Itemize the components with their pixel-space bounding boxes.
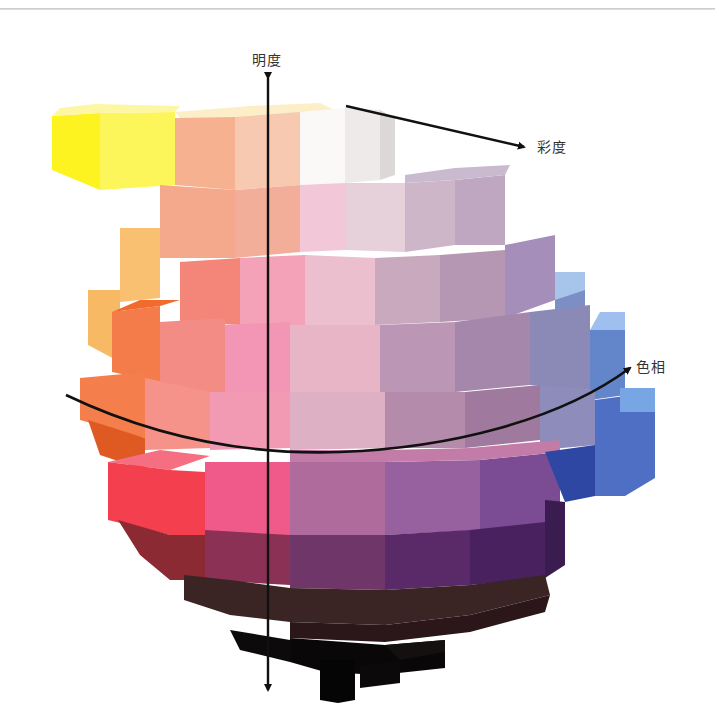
- color-block-rose-eq: [290, 392, 385, 450]
- color-block-pink-deep: [205, 462, 290, 535]
- color-block-orange-light: [120, 228, 160, 302]
- chroma-axis-label: 彩度: [537, 136, 567, 156]
- color-block-steel-mid: [530, 305, 590, 390]
- color-block-pink-light-2: [345, 183, 405, 252]
- color-block-plum-side: [545, 500, 565, 578]
- color-block-maroon-2: [205, 530, 290, 585]
- color-block-yellow-side: [100, 112, 175, 190]
- color-block-mauve-eq-2: [465, 385, 540, 448]
- color-block-pink-mid: [225, 322, 290, 395]
- color-block-plum-2: [385, 530, 470, 590]
- color-block-white-top-2: [345, 108, 380, 183]
- color-block-black-stem: [320, 660, 355, 703]
- color-block-plum-3: [470, 522, 545, 585]
- color-block-peach-upper-1: [175, 117, 235, 190]
- color-block-purple-1: [385, 460, 480, 535]
- color-block-mauve-light-1: [405, 180, 455, 252]
- hue-axis-label: 色相: [636, 356, 666, 376]
- color-block-pink-light-1: [300, 183, 345, 252]
- color-block-plum-1: [290, 535, 385, 590]
- color-block-magenta-1: [290, 462, 385, 535]
- color-block-pink-light-mid: [290, 325, 380, 392]
- color-block-mauve-mid-2: [455, 312, 530, 392]
- color-block-white-top-1: [300, 108, 345, 185]
- color-block-mauve-mid: [380, 322, 455, 392]
- color-block-pink-2: [240, 255, 305, 325]
- color-block-mauve-3: [375, 255, 440, 325]
- color-block-blue-mid-top: [590, 312, 625, 330]
- color-block-black-1: [230, 630, 290, 662]
- color-block-salmon-1: [180, 258, 240, 325]
- color-solid-diagram: [0, 0, 715, 726]
- color-block-pink-3: [305, 255, 375, 325]
- color-block-peach-mid-1: [160, 185, 235, 258]
- color-block-pink-eq: [210, 392, 290, 450]
- color-block-lilac-4: [505, 235, 555, 318]
- color-solid-blocks: [52, 103, 655, 703]
- value-axis-label: 明度: [252, 49, 282, 69]
- color-block-orange-mid: [112, 306, 160, 382]
- color-block-mauve-light-2: [455, 175, 505, 245]
- color-block-mauve-4: [440, 250, 505, 322]
- color-block-white-top-side: [380, 110, 395, 180]
- color-block-yellow-front: [52, 113, 100, 190]
- color-block-blue-eq-top: [620, 388, 655, 412]
